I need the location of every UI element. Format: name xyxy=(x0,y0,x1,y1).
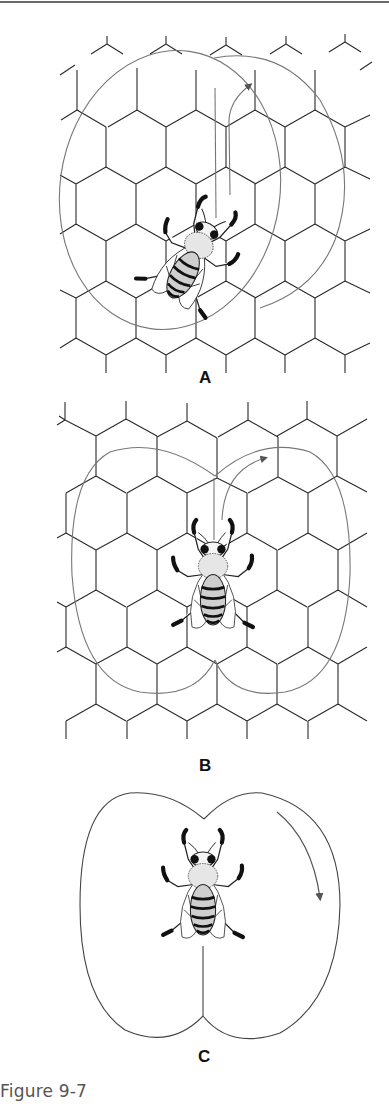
bee-a xyxy=(134,186,255,319)
panel-label-b: B xyxy=(199,756,211,776)
figure-caption: Figure 9-7 xyxy=(0,1081,87,1101)
direction-arrow-c xyxy=(277,812,320,898)
figure-illustration xyxy=(0,0,389,1104)
panel-b xyxy=(57,401,367,739)
panel-c xyxy=(80,793,340,1039)
panel-a xyxy=(42,34,372,373)
panel-label-a: A xyxy=(199,368,211,388)
panel-label-c: C xyxy=(198,1047,210,1067)
bee-c xyxy=(163,830,243,938)
